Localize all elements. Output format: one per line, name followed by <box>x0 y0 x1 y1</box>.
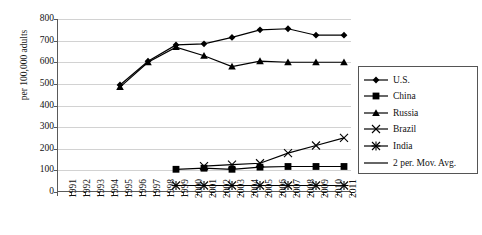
x-tick-label: 2010 <box>334 179 344 198</box>
x-tick-label: 2005 <box>264 179 274 198</box>
legend-item-india[interactable]: India <box>363 138 413 153</box>
data-point-diamond <box>229 34 236 41</box>
plot-area <box>57 19 351 192</box>
x-tick-label: 2004 <box>250 179 260 198</box>
y-tick-label: 400 <box>20 101 54 111</box>
data-point-x <box>312 142 320 150</box>
data-point-diamond <box>313 32 320 39</box>
y-tick-label: 200 <box>20 144 54 154</box>
data-point-diamond <box>257 26 264 33</box>
legend-item-russia[interactable]: Russia <box>363 105 418 120</box>
x-tick-label: 1996 <box>138 179 148 198</box>
x-tick-label: 1998 <box>166 179 176 198</box>
x-axis-ticks: 1991199219931994199519961997199819992000… <box>57 192 351 235</box>
data-point-diamond <box>341 32 348 39</box>
x-tick-label: 2003 <box>236 179 246 198</box>
data-point-diamond <box>373 76 380 83</box>
legend-item-u-s[interactable]: U.S. <box>363 72 410 87</box>
x-tick-label: 1991 <box>68 179 78 198</box>
x-tick-label: 2007 <box>292 179 302 198</box>
legend: U.S.ChinaRussiaBrazilIndia2 per. Mov. Av… <box>358 66 478 174</box>
legend-label: Russia <box>389 108 418 118</box>
data-point-square <box>341 163 348 170</box>
legend-label: 2 per. Mov. Avg. <box>389 158 456 168</box>
y-axis-ticks: 0100200300400500600700800 <box>14 19 54 192</box>
x-tick-label: 1993 <box>96 179 106 198</box>
x-tick-label: 1997 <box>152 179 162 198</box>
data-point-square <box>257 164 264 171</box>
x-tick-label: 1995 <box>124 179 134 198</box>
y-tick-label: 500 <box>20 79 54 89</box>
line-chart: per 100,000 adults 010020030040050060070… <box>0 0 482 235</box>
x-tick-label: 2008 <box>306 179 316 198</box>
asterisk-icon <box>363 139 389 153</box>
data-point-diamond <box>201 40 208 47</box>
x-tick-label: 2011 <box>348 179 358 198</box>
data-point-square <box>173 166 180 173</box>
x-tick-label: 2009 <box>320 179 330 198</box>
y-tick-label: 800 <box>20 14 54 24</box>
y-tick-label: 0 <box>20 187 54 197</box>
y-tick-label: 300 <box>20 122 54 132</box>
y-tick-label: 700 <box>20 36 54 46</box>
line-icon <box>363 156 389 170</box>
legend-item-2-per-mov-avg[interactable]: 2 per. Mov. Avg. <box>363 155 456 170</box>
legend-label: India <box>389 141 413 151</box>
triangle-icon <box>363 106 389 120</box>
legend-item-china[interactable]: China <box>363 89 416 104</box>
x-tick-label: 1992 <box>82 179 92 198</box>
x-tick-label: 2002 <box>222 179 232 198</box>
legend-item-brazil[interactable]: Brazil <box>363 122 416 137</box>
legend-label: Brazil <box>389 124 416 134</box>
x-tick-label: 2001 <box>208 179 218 198</box>
data-point-diamond <box>285 25 292 32</box>
series-line-brazil <box>204 138 344 166</box>
x-tick-label: 1994 <box>110 179 120 198</box>
data-point-square <box>313 163 320 170</box>
legend-label: U.S. <box>389 75 410 85</box>
x-icon <box>363 122 389 136</box>
x-tick-label: 2006 <box>278 179 288 198</box>
x-tick-label: 2000 <box>194 179 204 198</box>
series-layer <box>57 19 351 192</box>
data-point-asterisk <box>372 141 381 150</box>
y-tick-label: 100 <box>20 165 54 175</box>
diamond-icon <box>363 73 389 87</box>
data-point-square <box>373 93 380 100</box>
x-tick-label: 1999 <box>180 179 190 198</box>
square-icon <box>363 89 389 103</box>
data-point-x <box>340 134 348 142</box>
x-tick-mark <box>57 192 58 196</box>
data-point-square <box>285 163 292 170</box>
legend-label: China <box>389 91 416 101</box>
data-point-x <box>284 149 292 157</box>
y-tick-label: 600 <box>20 57 54 67</box>
